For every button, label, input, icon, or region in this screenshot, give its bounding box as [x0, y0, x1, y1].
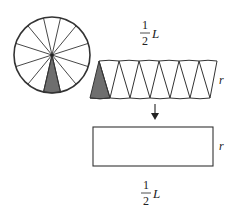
strip-radius-label: r — [219, 73, 224, 87]
svg-text:2: 2 — [143, 194, 149, 208]
svg-text:1: 1 — [143, 178, 149, 192]
circle-area-diagram: 1 2 L r r 1 2 L — [0, 0, 237, 216]
svg-text:L: L — [151, 26, 159, 41]
shaded-wedge — [90, 61, 110, 99]
sectored-circle — [14, 17, 90, 93]
shaded-sector — [44, 55, 61, 93]
down-arrow-icon — [151, 104, 159, 120]
svg-text:1: 1 — [142, 18, 148, 32]
strip-length-label: 1 2 L — [140, 18, 159, 48]
svg-text:2: 2 — [142, 34, 148, 48]
result-rectangle — [93, 127, 213, 166]
rectangle-length-label: 1 2 L — [141, 178, 160, 208]
rearranged-strip — [90, 60, 217, 99]
rectangle-radius-label: r — [219, 139, 224, 153]
svg-text:L: L — [152, 186, 160, 201]
